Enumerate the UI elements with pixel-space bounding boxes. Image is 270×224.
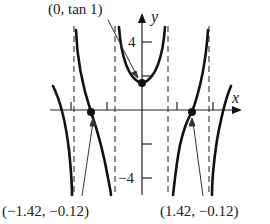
x-axis-label: x xyxy=(231,89,239,106)
arrowhead-icon xyxy=(189,118,195,126)
point-left xyxy=(87,108,95,116)
point-right xyxy=(188,108,196,116)
callout-arrow-right xyxy=(193,122,203,196)
point-label-left: (−1.42, −0.12) xyxy=(2,203,89,220)
curve-branch-far-right xyxy=(212,86,231,195)
y-axis-label: y xyxy=(149,8,159,26)
axes xyxy=(50,15,240,195)
callout-arrow-left xyxy=(82,122,93,196)
point-top xyxy=(138,79,146,87)
y-tick-label-4: 4 xyxy=(128,34,136,50)
point-label-right: (1.42, −0.12) xyxy=(160,203,238,220)
point-label-top: (0, tan 1) xyxy=(48,1,103,18)
y-tick-label-neg4: −4 xyxy=(118,170,134,186)
graph-canvas: (0, tan 1) y x 4 −4 (−1.42, −0.12) (1.42… xyxy=(0,0,270,224)
curve-branch-far-left xyxy=(53,86,72,195)
